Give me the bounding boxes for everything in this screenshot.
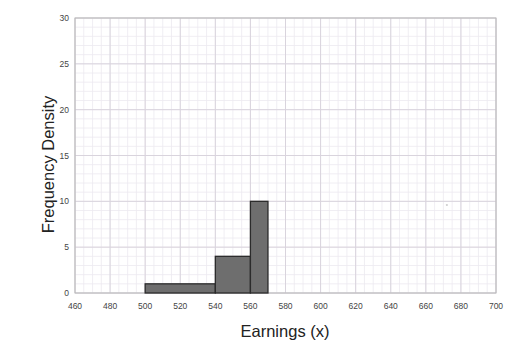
x-tick-540: 540 [195, 301, 235, 311]
x-tick-600: 600 [301, 301, 341, 311]
x-tick-700: 700 [476, 301, 514, 311]
x-tick-620: 620 [336, 301, 376, 311]
y-tick-15: 15 [35, 151, 69, 161]
x-axis-title: Earnings (x) [75, 322, 495, 341]
histogram-bar-3 [250, 201, 268, 293]
histogram-bar-1 [145, 284, 215, 293]
y-tick-10: 10 [35, 196, 69, 206]
y-tick-25: 25 [35, 59, 69, 69]
histogram-figure: Frequency Density Earnings (x) 051015202… [0, 0, 514, 361]
x-tick-460: 460 [55, 301, 95, 311]
x-tick-560: 560 [230, 301, 270, 311]
x-tick-500: 500 [125, 301, 165, 311]
x-tick-580: 580 [266, 301, 306, 311]
stray-speck [446, 204, 448, 206]
y-tick-0: 0 [35, 288, 69, 298]
x-tick-640: 640 [371, 301, 411, 311]
x-tick-520: 520 [160, 301, 200, 311]
y-tick-30: 30 [35, 13, 69, 23]
histogram-bar-2 [215, 256, 250, 293]
x-tick-660: 660 [406, 301, 446, 311]
x-tick-680: 680 [441, 301, 481, 311]
y-tick-5: 5 [35, 242, 69, 252]
x-tick-480: 480 [90, 301, 130, 311]
y-tick-20: 20 [35, 105, 69, 115]
